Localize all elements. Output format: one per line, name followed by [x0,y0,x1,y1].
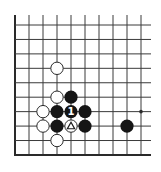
board-grid [14,15,151,155]
white-stone [37,105,49,117]
black-stone: 1 [64,105,77,118]
white-stone [51,134,63,146]
star-points [139,110,143,114]
star-point [139,110,143,114]
black-stone [120,119,133,132]
black-stone [50,105,63,118]
black-stone [50,119,63,132]
white-stone [51,91,63,103]
black-stone [78,119,91,132]
black-stone [64,91,77,104]
go-board-diagram: 1 [0,0,161,172]
white-stone [51,62,63,74]
go-board-svg: 1 [0,0,161,172]
white-stone [65,120,77,132]
move-number-label: 1 [68,106,75,117]
black-stone [78,105,91,118]
white-stone [37,120,49,132]
